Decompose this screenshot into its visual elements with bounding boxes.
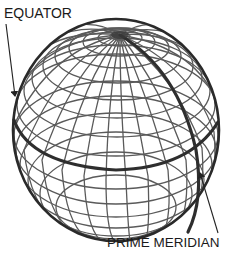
prime-meridian-label: PRIME MERIDIAN [107, 236, 220, 250]
globe [12, 19, 220, 241]
north-pole [111, 31, 129, 39]
equator-pointer-arrow [6, 24, 15, 96]
prime-meridian-pointer-arrow [200, 173, 218, 233]
equator-label: EQUATOR [4, 6, 72, 20]
globe-diagram [0, 0, 226, 254]
